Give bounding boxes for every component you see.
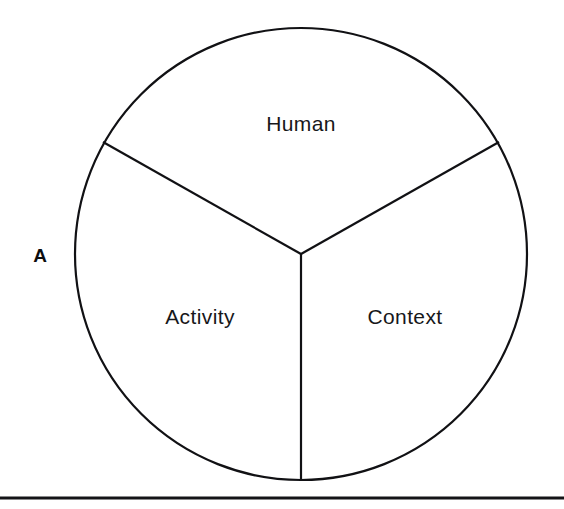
segment-label-context: Context (367, 305, 442, 328)
segment-label-activity: Activity (165, 305, 235, 328)
panel-letter-a: A (33, 245, 47, 266)
divider-upper-right (301, 142, 499, 254)
three-segment-circle-diagram: Human Activity Context A (0, 0, 564, 509)
divider-upper-left (103, 142, 301, 254)
segment-label-human: Human (266, 112, 336, 135)
figure-panel-a: Human Activity Context A (0, 0, 564, 509)
